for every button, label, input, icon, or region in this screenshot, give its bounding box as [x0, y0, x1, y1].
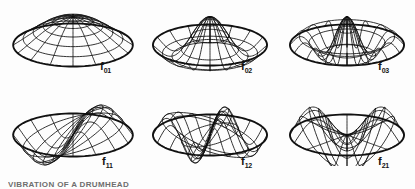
- mode-surface-f01: [8, 6, 138, 76]
- mode-label-f21: f21: [378, 156, 389, 167]
- vibration-modes-figure: f01f02f03f11f12f21: [0, 0, 415, 189]
- mode-surface-f12: [148, 96, 272, 166]
- mode-surface-f21: [285, 96, 409, 166]
- mode-panel-f02: [148, 6, 272, 76]
- mode-label-subscript-f01: 01: [104, 67, 111, 74]
- mode-label-subscript-f21: 21: [382, 162, 389, 169]
- mode-label-subscript-f11: 11: [106, 162, 113, 169]
- mode-label-f03: f03: [378, 61, 389, 72]
- figure-caption: VIBRATION OF A DRUMHEAD: [8, 180, 129, 189]
- mode-label-subscript-f02: 02: [245, 67, 252, 74]
- mode-panel-f01: [8, 6, 138, 76]
- mode-panel-f12: [148, 96, 272, 166]
- mode-surface-f03: [285, 6, 409, 76]
- mode-label-f12: f12: [241, 156, 252, 167]
- mode-label-subscript-f03: 03: [382, 67, 389, 74]
- mode-label-f01: f01: [100, 61, 111, 72]
- mode-surface-f02: [148, 6, 272, 76]
- mode-label-f02: f02: [241, 61, 252, 72]
- mode-panel-f21: [285, 96, 409, 166]
- mode-surface-f11: [8, 96, 138, 166]
- mode-panel-f03: [285, 6, 409, 76]
- mode-label-f11: f11: [102, 156, 113, 167]
- mode-panel-f11: [8, 96, 138, 166]
- mode-label-subscript-f12: 12: [245, 162, 252, 169]
